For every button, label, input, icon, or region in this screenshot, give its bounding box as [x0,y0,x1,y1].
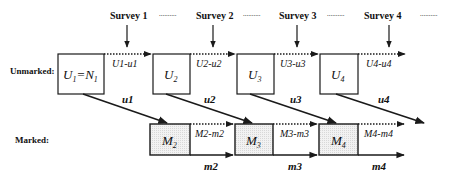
unmarked-box-3: U3 [237,54,274,94]
marking-u4-label: u4 [378,93,390,105]
marked-box-4: M4 [319,124,358,155]
unmarked-row-label: Unmarked: [10,66,55,76]
survey-2-label: Survey 2 [196,10,234,21]
survey-header: Survey 1 Survey 2 Survey 3 Survey 4 ....… [110,10,438,47]
flow-m2-label: M2-m2 [194,128,224,139]
marking-u1-label: u1 [122,93,134,105]
flow-u4-label: U4-u4 [366,58,392,69]
marked-row-label: Marked: [15,135,49,145]
marking-arrows [83,94,424,123]
survey-gap-marker: .......... [327,10,345,18]
flow-u2-label: U2-u2 [196,58,222,69]
flow-m4-label: M4-m4 [363,128,393,139]
box-u1-label: U1=N1 [63,67,98,84]
flow-u1-label: U1-u1 [112,58,138,69]
survey-gap-marker: .......... [243,10,261,18]
recapture-m3-label: m3 [288,160,303,172]
unmarked-box-1: U1=N1 [58,54,104,94]
flow-m3-label: M3-m3 [279,128,309,139]
unmarked-box-2: U2 [153,54,190,94]
survey-1-label: Survey 1 [110,10,148,21]
survey-gap-marker: .......... [420,10,438,18]
recapture-m2-label: m2 [204,160,219,172]
recapture-m4-label: m4 [372,160,387,172]
marking-u2-label: u2 [204,93,216,105]
survey-gap-marker: .......... [159,10,177,18]
marked-box-3: M3 [235,124,273,155]
mark-recapture-diagram: Survey 1 Survey 2 Survey 3 Survey 4 ....… [0,0,453,183]
marking-u3-label: u3 [290,93,302,105]
survey-4-label: Survey 4 [364,10,402,21]
flow-u3-label: U3-u3 [280,58,306,69]
survey-3-label: Survey 3 [279,10,317,21]
unmarked-box-4: U4 [320,54,358,94]
marked-box-2: M2 [150,124,190,155]
